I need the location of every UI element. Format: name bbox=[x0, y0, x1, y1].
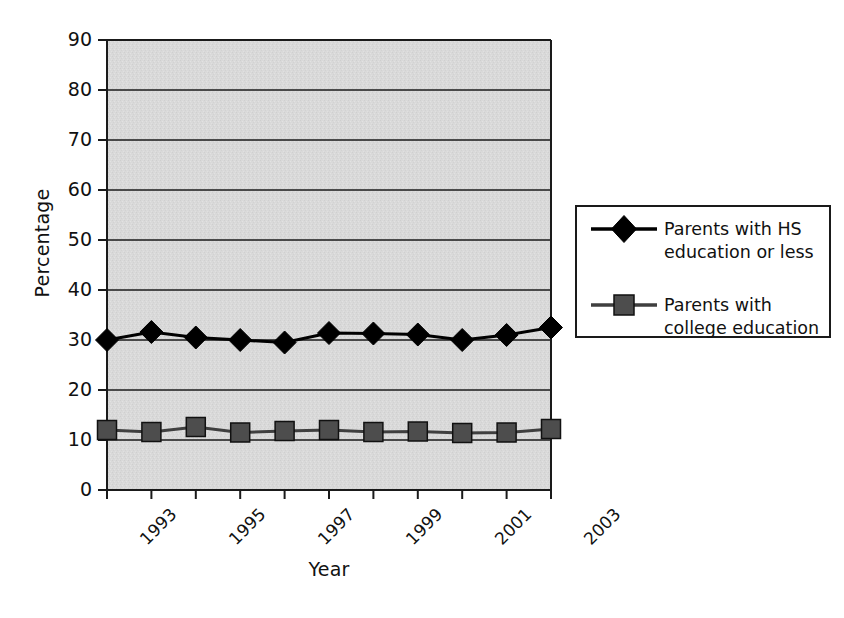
legend-label-line-1: Parents with HS bbox=[664, 218, 814, 241]
square-marker-icon bbox=[614, 295, 634, 315]
legend-item-hs-education: Parents with HS education or less bbox=[664, 218, 814, 264]
legend-item-college-education: Parents with college education bbox=[664, 294, 819, 340]
legend-label-line-2: college education bbox=[664, 317, 819, 340]
legend-label-line-2: education or less bbox=[664, 241, 814, 264]
chart-figure: 0102030405060708090 19931995199719992001… bbox=[0, 0, 844, 618]
legend-label-line-1: Parents with bbox=[664, 294, 819, 317]
